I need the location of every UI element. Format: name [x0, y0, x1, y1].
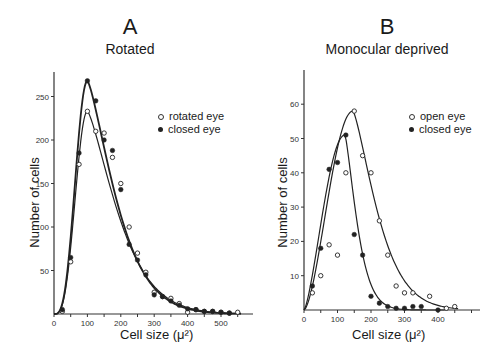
filled-circle-data-point — [385, 304, 390, 309]
fit-curve — [304, 135, 445, 310]
y-tick-label: 250 — [36, 93, 50, 102]
open-circle-data-point — [411, 291, 415, 295]
open-circle-data-point — [327, 243, 331, 247]
fit-curve — [304, 111, 458, 310]
y-tick-label: 60 — [290, 100, 299, 109]
open-circle-data-point — [394, 284, 398, 288]
open-circle-data-point — [352, 109, 356, 113]
filled-circle-data-point — [152, 293, 157, 298]
open-circle-data-point — [94, 129, 98, 133]
filled-circle-data-point — [60, 307, 65, 312]
y-tick-label: 50 — [40, 267, 49, 276]
open-circle-data-point — [102, 131, 106, 135]
x-tick-label: 200 — [114, 319, 128, 328]
filled-circle-data-point — [210, 309, 215, 314]
y-tick-label: 150 — [36, 180, 50, 189]
open-circle-data-point — [236, 310, 240, 314]
filled-circle-data-point — [394, 306, 399, 311]
filled-circle-data-point — [318, 246, 323, 251]
filled-circle-data-point — [436, 308, 441, 313]
plot-canvas: 0100200300400500501001502002500100200300… — [0, 0, 500, 355]
filled-circle-data-point — [185, 306, 190, 311]
open-circle-data-point — [135, 251, 139, 255]
x-tick-label: 300 — [148, 319, 162, 328]
open-circle-data-point — [85, 109, 89, 113]
filled-circle-data-point — [169, 299, 174, 304]
x-tick-label: 200 — [364, 315, 378, 324]
filled-circle-data-point — [360, 253, 365, 258]
open-circle-data-point — [453, 304, 457, 308]
open-circle-data-point — [344, 171, 348, 175]
x-tick-label: 0 — [302, 315, 307, 324]
open-circle-data-point — [360, 153, 364, 157]
x-tick-label: 500 — [214, 319, 228, 328]
y-tick-label: 20 — [290, 237, 299, 246]
filled-circle-data-point — [127, 242, 132, 247]
filled-circle-data-point — [85, 79, 90, 84]
filled-circle-data-point — [227, 311, 232, 316]
filled-circle-data-point — [93, 99, 98, 104]
open-circle-data-point — [377, 219, 381, 223]
filled-circle-data-point — [369, 294, 374, 299]
filled-circle-data-point — [310, 284, 315, 289]
open-circle-data-point — [427, 294, 431, 298]
open-circle-data-point — [386, 253, 390, 257]
y-tick-label: 100 — [36, 223, 50, 232]
open-circle-data-point — [69, 260, 73, 264]
x-tick-label: 100 — [331, 315, 345, 324]
filled-circle-data-point — [344, 133, 349, 138]
open-circle-data-point — [119, 181, 123, 185]
filled-circle-data-point — [219, 310, 224, 315]
open-circle-data-point — [110, 155, 114, 159]
open-circle-data-point — [310, 291, 314, 295]
fit-curve — [54, 81, 241, 314]
open-circle-data-point — [369, 171, 373, 175]
filled-circle-data-point — [411, 304, 416, 309]
open-circle-data-point — [77, 162, 81, 166]
filled-circle-data-point — [327, 167, 332, 172]
open-circle-data-point — [127, 225, 131, 229]
filled-circle-data-point — [135, 258, 140, 263]
filled-circle-data-point — [352, 232, 357, 237]
x-tick-label: 0 — [52, 319, 57, 328]
filled-circle-data-point — [335, 160, 340, 165]
open-circle-data-point — [444, 306, 448, 310]
y-tick-label: 40 — [290, 169, 299, 178]
filled-circle-data-point — [177, 303, 182, 308]
filled-circle-data-point — [102, 138, 107, 143]
filled-circle-data-point — [110, 148, 115, 153]
y-tick-label: 50 — [290, 135, 299, 144]
y-tick-label: 30 — [290, 203, 299, 212]
filled-circle-data-point — [202, 309, 207, 314]
filled-circle-data-point — [160, 294, 165, 299]
open-circle-data-point — [402, 291, 406, 295]
x-tick-label: 400 — [431, 315, 445, 324]
filled-circle-data-point — [194, 307, 199, 312]
filled-circle-data-point — [377, 301, 382, 306]
open-circle-data-point — [335, 253, 339, 257]
x-tick-label: 100 — [81, 319, 95, 328]
x-tick-label: 300 — [398, 315, 412, 324]
x-tick-label: 400 — [181, 319, 195, 328]
filled-circle-data-point — [119, 187, 124, 192]
filled-circle-data-point — [77, 151, 82, 156]
filled-circle-data-point — [402, 306, 407, 311]
filled-circle-data-point — [144, 273, 149, 278]
fit-curve — [54, 111, 241, 314]
open-circle-data-point — [319, 274, 323, 278]
y-tick-label: 10 — [290, 272, 299, 281]
filled-circle-data-point — [419, 304, 424, 309]
y-tick-label: 200 — [36, 136, 50, 145]
filled-circle-data-point — [68, 255, 73, 260]
